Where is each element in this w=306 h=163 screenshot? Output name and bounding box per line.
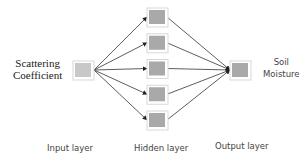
output-node [230,61,251,80]
input-label-line2: Coefficient [13,69,62,81]
edge-hidden-3-to-output [167,69,230,71]
edge-input-to-hidden-5 [94,70,147,120]
hidden-node-2 [147,34,168,53]
hidden-node-5 [147,111,168,130]
network-diagram [0,0,306,163]
output-label: Soil Moisture [263,56,300,80]
hidden-node-1 [147,8,168,27]
edge-input-to-hidden-4 [94,70,147,94]
output-label-line1: Soil [263,56,300,68]
edge-hidden-2-to-output [167,43,230,70]
edge-hidden-4-to-output [167,70,230,94]
input-layer-label: Input layer [47,143,93,153]
edge-hidden-5-to-output [167,70,230,120]
edge-input-to-hidden-2 [94,43,147,70]
hidden-node-4 [147,85,168,104]
edge-hidden-1-to-output [167,17,230,70]
edge-input-to-hidden-1 [94,17,147,70]
input-node [73,61,94,80]
edge-input-to-hidden-3 [94,69,147,71]
output-label-line2: Moisture [263,68,300,80]
input-label: Scattering Coefficient [13,57,62,81]
input-label-line1: Scattering [13,57,62,69]
output-layer-label: Output layer [215,141,269,151]
hidden-layer-label: Hidden layer [134,143,188,153]
hidden-node-3 [147,60,168,79]
